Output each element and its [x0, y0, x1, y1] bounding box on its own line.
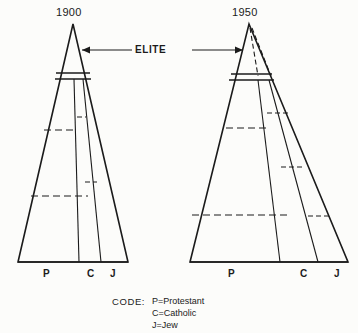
pyramid-1900-base-label-j: J [110, 268, 116, 279]
pyramid-1950-base-label-j: J [334, 268, 340, 279]
legend-entry-jew: J=Jew [152, 320, 178, 330]
pyramid-1950-elite-divider-c-j [252, 28, 271, 76]
legend-entry-catholic: C=Catholic [152, 308, 196, 318]
pyramid-diagram-svg [0, 0, 358, 333]
elite-arrow-head-left-icon [82, 47, 90, 54]
pyramid-1950-outline [190, 24, 348, 262]
pyramid-1950-group [190, 24, 348, 262]
legend-title: CODE: [112, 296, 145, 307]
pyramid-1900-year-label: 1900 [56, 6, 82, 18]
pyramid-1950-base-label-c: C [300, 268, 307, 279]
pyramid-1900-outline [18, 24, 128, 262]
pyramid-1900-base-label-c: C [87, 268, 94, 279]
elite-label: ELITE [135, 44, 166, 55]
pyramid-1950-year-label: 1950 [232, 6, 258, 18]
pyramid-1950-base-label-p: P [228, 268, 235, 279]
pyramid-1900-group [18, 24, 128, 262]
pyramid-1900-base-label-p: P [43, 268, 50, 279]
legend-entry-protestant: P=Protestant [152, 296, 204, 306]
figure-root: 1900 1950 ELITE P C J P C J CODE: P=Prot… [0, 0, 358, 333]
pyramid-1900-divider-p-c [74, 79, 79, 262]
